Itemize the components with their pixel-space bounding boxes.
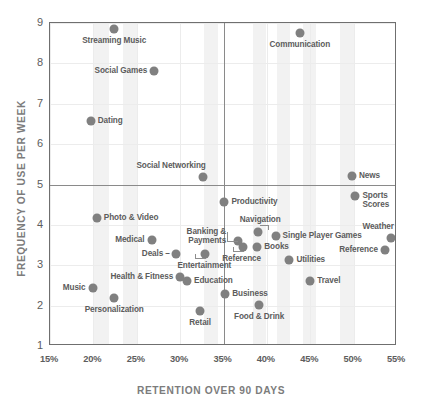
data-point[interactable]	[254, 228, 263, 237]
y-tick-label: 4	[37, 218, 43, 230]
data-point[interactable]	[253, 243, 262, 252]
gridline-vertical	[310, 23, 311, 344]
data-point[interactable]	[183, 277, 192, 286]
x-axis-label: RETENTION OVER 90 DAYS	[0, 385, 422, 396]
x-tick-label: 40%	[257, 354, 275, 364]
point-label: Photo & Video	[104, 213, 159, 222]
y-tick-label: 1	[37, 339, 43, 351]
point-label: Reference	[339, 245, 378, 254]
data-point[interactable]	[150, 67, 159, 76]
y-tick-label: 8	[37, 56, 43, 68]
gridline-horizontal	[50, 63, 395, 64]
leader-line	[195, 258, 206, 259]
gridline-horizontal	[50, 23, 395, 24]
data-point[interactable]	[351, 191, 360, 200]
point-label: Sports Scores	[362, 190, 396, 209]
data-point[interactable]	[171, 249, 180, 258]
chart-title-clipped	[0, 0, 422, 4]
point-label: Streaming Music	[82, 36, 146, 45]
y-tick-label: 5	[37, 178, 43, 190]
data-point[interactable]	[110, 293, 119, 302]
point-label: News	[359, 172, 380, 181]
data-point[interactable]	[386, 233, 395, 242]
x-tick-label: 50%	[344, 354, 362, 364]
plot-area: Streaming MusicCommunicationSocial Games…	[49, 22, 396, 345]
x-tick-label: 30%	[170, 354, 188, 364]
data-point[interactable]	[271, 232, 280, 241]
point-label: Personalization	[85, 305, 144, 314]
point-label: Banking & Payments	[178, 227, 226, 246]
watermark-band	[204, 23, 218, 344]
watermark-band	[277, 23, 290, 344]
point-label: Deals –	[142, 249, 170, 258]
gridline-horizontal	[50, 144, 395, 145]
data-point[interactable]	[198, 173, 207, 182]
data-point[interactable]	[285, 256, 294, 265]
gridline-vertical	[50, 23, 51, 344]
point-label: Health & Fitness	[111, 272, 174, 281]
point-label: Dating	[98, 116, 123, 125]
gridline-vertical	[354, 23, 355, 344]
gridline-vertical	[180, 23, 181, 344]
data-point[interactable]	[221, 289, 230, 298]
y-tick-label: 6	[37, 137, 43, 149]
data-point[interactable]	[110, 25, 119, 34]
leader-line	[227, 232, 228, 242]
data-point[interactable]	[255, 300, 264, 309]
data-point[interactable]	[306, 276, 315, 285]
point-label: Music	[63, 284, 86, 293]
chart-canvas: Streaming MusicCommunicationSocial Games…	[0, 0, 422, 410]
leader-line	[227, 241, 238, 242]
point-label: Navigation	[240, 215, 281, 224]
x-tick-label: 35%	[213, 354, 231, 364]
x-tick-label: 45%	[300, 354, 318, 364]
point-label: Education	[194, 277, 233, 286]
leader-line	[195, 254, 196, 259]
leader-line	[268, 225, 269, 230]
x-tick-label: 15%	[40, 354, 58, 364]
point-label: Business	[232, 289, 268, 298]
data-point[interactable]	[295, 29, 304, 38]
point-label: Single Player Games	[283, 232, 362, 241]
point-label: Travel	[317, 276, 340, 285]
point-label: Utilities	[296, 256, 325, 265]
y-tick-label: 7	[37, 97, 43, 109]
data-point[interactable]	[88, 284, 97, 293]
data-point[interactable]	[86, 116, 95, 125]
y-tick-label: 3	[37, 258, 43, 270]
y-tick-label: 9	[37, 16, 43, 28]
data-point[interactable]	[380, 245, 389, 254]
data-point[interactable]	[220, 197, 229, 206]
gridline-horizontal	[50, 104, 395, 105]
x-tick-label: 55%	[387, 354, 405, 364]
data-point[interactable]	[92, 214, 101, 223]
watermark-band	[340, 23, 354, 344]
point-label: Weather	[362, 222, 393, 231]
y-tick-label: 2	[37, 299, 43, 311]
data-point[interactable]	[196, 306, 205, 315]
point-label: Productivity	[231, 197, 277, 206]
point-label: Entertainment	[177, 261, 231, 270]
leader-line	[233, 251, 244, 252]
y-axis-label: FREQUENCY OF USE PER WEEK	[16, 94, 27, 284]
point-label: Social Networking	[136, 162, 205, 171]
data-point[interactable]	[347, 172, 356, 181]
x-tick-label: 20%	[83, 354, 101, 364]
data-point[interactable]	[147, 236, 156, 245]
point-label: Communication	[270, 40, 331, 49]
point-label: Food & Drink	[234, 312, 284, 321]
point-label: Social Games	[95, 67, 148, 76]
x-tick-label: 25%	[127, 354, 145, 364]
leader-line	[233, 247, 234, 252]
quadrant-divider-horizontal	[50, 185, 395, 186]
point-label: Medical	[115, 236, 144, 245]
point-label: Retail	[189, 318, 211, 327]
point-label: Books	[264, 242, 289, 251]
